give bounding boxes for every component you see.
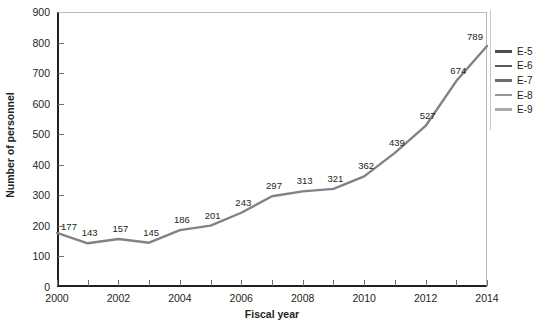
x-tick-mark: [118, 280, 119, 286]
x-tick-label: 2006: [219, 292, 263, 304]
x-tick-mark: [57, 280, 58, 286]
x-tick-mark-minor: [395, 280, 396, 286]
x-tick-label: 2004: [158, 292, 202, 304]
x-axis-title-text: Fiscal year: [245, 308, 299, 320]
legend-swatch: [495, 65, 512, 68]
data-point-label: 145: [143, 227, 159, 238]
data-point-label: 186: [174, 214, 190, 225]
legend-label: E-6: [517, 60, 533, 71]
data-point-label: 157: [112, 223, 128, 234]
data-point-label: 201: [205, 210, 221, 221]
data-point-label: 789: [467, 31, 483, 42]
x-axis-title: Fiscal year: [57, 308, 487, 320]
data-point-label: 362: [358, 160, 374, 171]
x-tick-label: 2002: [96, 292, 140, 304]
chart-legend: E-5E-6E-7E-8E-9: [495, 44, 543, 117]
data-point-label: 143: [82, 227, 98, 238]
data-point-label: 177: [61, 221, 77, 232]
x-tick-mark: [241, 280, 242, 286]
chart-page: Number of personnel 01002003004005006007…: [0, 0, 543, 331]
legend-label: E-9: [517, 104, 533, 115]
x-tick-mark-minor: [88, 280, 89, 286]
data-point-label: 321: [327, 173, 343, 184]
legend-label: E-7: [517, 75, 533, 86]
series-line-e9: [57, 46, 487, 243]
x-tick-label: 2012: [404, 292, 448, 304]
data-point-label: 313: [297, 175, 313, 186]
legend-label: E-5: [517, 46, 533, 57]
legend-item[interactable]: E-7: [495, 73, 543, 88]
data-point-label: 297: [266, 180, 282, 191]
x-tick-mark-minor: [272, 280, 273, 286]
x-tick-mark-minor: [211, 280, 212, 286]
data-point-label: 674: [450, 65, 466, 76]
data-point-label: 243: [235, 197, 251, 208]
x-tick-mark: [364, 280, 365, 286]
legend-swatch: [495, 108, 512, 111]
x-tick-label: 2014: [465, 292, 509, 304]
data-point-label: 439: [389, 137, 405, 148]
x-tick-mark-minor: [149, 280, 150, 286]
x-tick-label: 2010: [342, 292, 386, 304]
x-tick-mark: [487, 280, 488, 286]
legend-item[interactable]: E-9: [495, 102, 543, 117]
legend-item[interactable]: E-8: [495, 88, 543, 103]
legend-divider: [490, 10, 491, 130]
legend-swatch: [495, 79, 512, 82]
legend-swatch: [495, 50, 512, 53]
x-tick-mark: [303, 280, 304, 286]
x-tick-label: 2000: [35, 292, 79, 304]
legend-item[interactable]: E-5: [495, 44, 543, 59]
legend-swatch: [495, 94, 512, 97]
x-tick-mark: [426, 280, 427, 286]
x-tick-mark-minor: [456, 280, 457, 286]
x-tick-mark: [180, 280, 181, 286]
x-tick-mark-minor: [333, 280, 334, 286]
data-point-label: 527: [420, 110, 436, 121]
legend-item[interactable]: E-6: [495, 59, 543, 74]
x-tick-label: 2008: [281, 292, 325, 304]
legend-label: E-8: [517, 90, 533, 101]
